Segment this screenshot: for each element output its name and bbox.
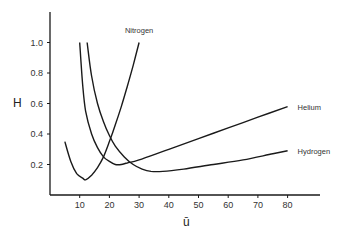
y-tick-label: 1.0 [30,38,43,48]
x-tick-label: 50 [193,200,203,210]
x-tick-label: 60 [223,200,233,210]
x-axis-label: ū [183,215,190,229]
y-ticks: 0.20.40.60.81.0 [30,38,50,170]
x-tick-label: 80 [283,200,293,210]
label-nitrogen: Nitrogen [125,26,153,35]
y-tick-label: 0.6 [30,99,43,109]
curve-helium [80,43,288,165]
x-tick-label: 70 [253,200,263,210]
x-ticks: 1020304050607080 [75,195,293,210]
x-tick-label: 40 [164,200,174,210]
y-tick-label: 0.8 [30,68,43,78]
x-tick-label: 10 [75,200,85,210]
y-tick-label: 0.2 [30,160,43,170]
x-tick-label: 20 [104,200,114,210]
curves [65,43,288,180]
axes [50,12,320,195]
chart: 0.20.40.60.81.0 1020304050607080 H ū Nit… [0,0,341,237]
label-helium: Helium [298,103,321,112]
series-labels: NitrogenHeliumHydrogen [125,26,330,156]
y-tick-label: 0.4 [30,129,43,139]
label-hydrogen: Hydrogen [298,147,331,156]
curve-nitrogen [65,43,139,180]
curve-hydrogen [87,43,287,172]
x-tick-label: 30 [134,200,144,210]
y-axis-label: H [13,96,22,110]
